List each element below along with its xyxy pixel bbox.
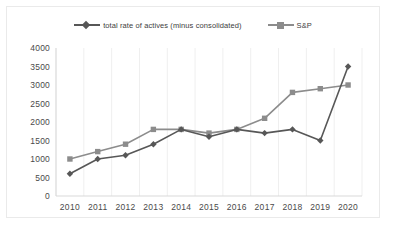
x-axis-tick-label: 2012 [115, 202, 135, 212]
diamond-marker-icon [95, 156, 101, 162]
square-marker-icon [151, 127, 156, 132]
diamond-marker-icon [289, 126, 295, 132]
diamond-marker-icon [150, 141, 156, 147]
y-axis-tick-label: 1000 [30, 154, 50, 164]
y-axis-tick-label: 0 [45, 191, 50, 201]
square-marker-icon [345, 82, 350, 87]
plot-area: 05001000150020002500300035004000 2010201… [7, 7, 381, 219]
square-marker-icon [95, 149, 100, 154]
x-axis-tick-label: 2014 [171, 202, 191, 212]
y-axis-tick-label: 500 [35, 173, 50, 183]
diamond-marker-icon [261, 130, 267, 136]
chart-container: total rate of actives (minus consolidate… [6, 6, 380, 218]
gridlines-group [56, 48, 362, 196]
y-axis-tick-label: 4000 [30, 43, 50, 53]
x-axis-tick-label: 2011 [88, 202, 107, 212]
square-marker-icon [123, 142, 128, 147]
y-axis-tick-label: 2000 [30, 117, 50, 127]
x-axis-tick-label: 2019 [310, 202, 330, 212]
axis-lines-group [56, 48, 362, 196]
square-marker-icon [290, 90, 295, 95]
square-marker-icon [262, 116, 267, 121]
y-axis-tick-label: 3500 [30, 62, 50, 72]
x-axis-tick-label: 2018 [282, 202, 302, 212]
y-axis-tick-label: 1500 [30, 136, 50, 146]
y-axis-tick-label: 2500 [30, 99, 50, 109]
x-axis-tick-label: 2015 [199, 202, 219, 212]
x-axis-tick-label: 2020 [338, 202, 358, 212]
diamond-marker-icon [122, 152, 128, 158]
series-sp-group [67, 82, 351, 161]
diamond-marker-icon [345, 63, 351, 69]
series-actives-group [67, 63, 352, 177]
chart-svg: 05001000150020002500300035004000 2010201… [7, 7, 381, 219]
diamond-marker-icon [317, 137, 323, 143]
x-axis-tick-label: 2017 [255, 202, 275, 212]
x-axis-tick-label: 2016 [227, 202, 247, 212]
x-axis-ticks: 2010201120122013201420152016201720182019… [60, 202, 358, 212]
diamond-marker-icon [67, 171, 73, 177]
y-axis-tick-label: 3000 [30, 80, 50, 90]
x-axis-tick-label: 2013 [143, 202, 163, 212]
x-axis-tick-label: 2010 [60, 202, 80, 212]
square-marker-icon [318, 86, 323, 91]
y-axis-ticks: 05001000150020002500300035004000 [30, 43, 50, 201]
square-marker-icon [67, 156, 72, 161]
